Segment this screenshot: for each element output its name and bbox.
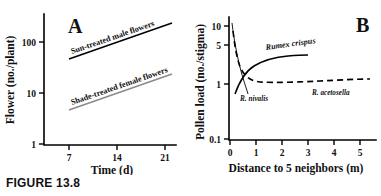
panel-b-xticklabel-0: 0 [228, 148, 233, 158]
panel-b-yticklabel-10: 10 [212, 22, 222, 32]
panel-b-xticklabel-4: 4 [332, 148, 337, 158]
panel-a-xticklabel-21: 21 [160, 153, 170, 163]
panel-b-series-nivalis-label: R. nivalis [239, 95, 268, 103]
panel-b-series-acetosella-label: R. acetosella [311, 89, 350, 97]
panel-a-y-axis-title: Flower (no./plant) [4, 36, 17, 125]
panel-a-yticklabel-10: 10 [27, 89, 37, 99]
panel-a-xticklabel-7: 7 [67, 153, 72, 163]
panel-b-x-axis-title: Distance to 5 neighbors (m) [229, 162, 364, 175]
panel-b-xticklabel-3: 3 [306, 148, 311, 158]
panel-a-series-sun-label: Sun-treated male flowers [70, 19, 156, 56]
figure-caption: FIGURE 13.8 [6, 176, 80, 190]
panel-b: Pollen load (no./stigma) 10 5 1 0.1 0 1 … [190, 0, 381, 175]
panel-a-xticklabel-14: 14 [112, 153, 122, 163]
panel-a-x-axis-title: Time (d) [91, 164, 133, 175]
panel-a-series-shade-line [69, 74, 172, 110]
figure-13-8: Flower (no./plant) 100 10 1 7 14 21 Time… [0, 0, 381, 196]
panel-a-letter: A [68, 15, 83, 37]
panel-b-axes [229, 17, 376, 140]
panel-b-xticklabel-5: 5 [358, 148, 363, 158]
panel-b-yticklabel-5: 5 [216, 41, 221, 51]
panel-b-yticklabel-0.1: 0.1 [209, 135, 221, 145]
panel-b-y-axis-title: Pollen load (no./stigma) [194, 24, 207, 140]
panel-a: Flower (no./plant) 100 10 1 7 14 21 Time… [0, 0, 190, 175]
panel-b-yticklabel-1: 1 [216, 80, 221, 90]
panel-b-xticklabel-1: 1 [254, 148, 259, 158]
panel-b-xticklabel-2: 2 [280, 148, 285, 158]
panel-b-letter: B [356, 14, 369, 36]
panel-b-series-crispus-label: Rumex crispus [264, 36, 316, 52]
panel-b-plot: Pollen load (no./stigma) 10 5 1 0.1 0 1 … [190, 0, 381, 175]
panel-a-yticklabel-100: 100 [22, 38, 37, 48]
panel-a-series-sun-line [69, 23, 172, 59]
panel-a-series-shade-label: Shade-treated female flowers [70, 65, 169, 107]
panel-a-yticklabel-1: 1 [31, 140, 36, 150]
panel-a-plot: Flower (no./plant) 100 10 1 7 14 21 Time… [0, 0, 190, 175]
